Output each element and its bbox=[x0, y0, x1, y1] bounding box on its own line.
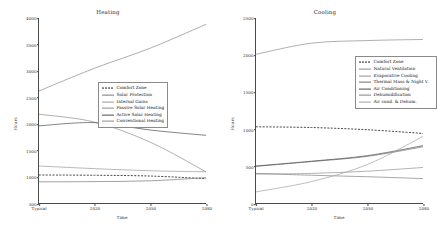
legend-item[interactable]: Passive Solar Heating bbox=[102, 105, 165, 112]
legend-item[interactable]: Thermal Mass & Night V. bbox=[359, 79, 434, 86]
x-tick-label: 2020 bbox=[90, 206, 100, 211]
y-tick-label: 1000 bbox=[26, 175, 36, 180]
chart-panel-heating: Heating Hours 50010001500200025003000350… bbox=[0, 0, 216, 248]
y-tick-label: 2500 bbox=[26, 95, 36, 100]
chart-title-cooling: Cooling bbox=[217, 9, 433, 15]
plot-area-cooling: 05001000150020002500Typical202020502080 bbox=[255, 18, 423, 204]
legend-line-swatch bbox=[359, 61, 371, 64]
x-tick-label: 2080 bbox=[202, 206, 212, 211]
y-axis-label-cooling: Hours bbox=[230, 117, 235, 130]
series-line bbox=[39, 24, 206, 91]
y-tick-mark bbox=[37, 124, 39, 125]
x-tick-label: Typical bbox=[31, 206, 46, 211]
legend-item-label: Dehumidification bbox=[374, 93, 411, 97]
x-tick-label: 2050 bbox=[146, 206, 156, 211]
legend-item[interactable]: Solar Protection bbox=[102, 92, 165, 99]
y-tick-mark bbox=[37, 18, 39, 19]
legend-line-swatch bbox=[102, 120, 114, 123]
legend-item[interactable]: Air Conditioning bbox=[359, 86, 434, 93]
series-line bbox=[256, 127, 423, 134]
series-line bbox=[256, 167, 423, 174]
x-tick-mark bbox=[95, 204, 96, 206]
y-tick-mark bbox=[254, 129, 256, 130]
y-tick-label: 1500 bbox=[26, 148, 36, 153]
y-tick-mark bbox=[254, 18, 256, 19]
legend-line-swatch bbox=[102, 87, 114, 90]
legend-item-label: Active Solar Heating bbox=[117, 113, 162, 117]
legend-item[interactable]: Dehumidification bbox=[359, 92, 434, 99]
series-lines-cooling bbox=[256, 18, 423, 203]
legend-item-label: Thermal Mass & Night V. bbox=[374, 80, 429, 84]
legend-line-swatch bbox=[359, 94, 371, 97]
legend-item[interactable]: Evaporative Cooling bbox=[359, 72, 434, 79]
legend-item-label: Solar Protection bbox=[117, 93, 153, 97]
legend-item-label: Comfort Zone bbox=[374, 60, 404, 64]
legend-line-swatch bbox=[359, 87, 371, 90]
x-tick-mark bbox=[151, 204, 152, 206]
chart-title-heating: Heating bbox=[0, 9, 216, 15]
legend-item[interactable]: Conventional Heating bbox=[102, 118, 165, 125]
x-tick-mark bbox=[312, 204, 313, 206]
legend-item[interactable]: Air cond. & Dehum. bbox=[359, 99, 434, 106]
legend-line-swatch bbox=[102, 107, 114, 110]
y-tick-label: 500 bbox=[246, 164, 254, 169]
x-tick-mark bbox=[368, 204, 369, 206]
x-axis-label-cooling: Time bbox=[255, 215, 423, 220]
y-tick-label: 3000 bbox=[26, 69, 36, 74]
legend-line-swatch bbox=[359, 74, 371, 77]
y-tick-label: 1000 bbox=[243, 127, 253, 132]
legend-line-swatch bbox=[359, 81, 371, 84]
legend-line-swatch bbox=[359, 101, 371, 104]
y-tick-label: 2500 bbox=[243, 16, 253, 21]
legend-item-label: Internal Gains bbox=[117, 100, 148, 104]
y-tick-label: 4000 bbox=[26, 16, 36, 21]
x-tick-mark bbox=[207, 204, 208, 206]
series-line bbox=[39, 166, 206, 172]
y-tick-label: 1500 bbox=[243, 90, 253, 95]
series-line bbox=[39, 178, 206, 182]
legend-line-swatch bbox=[102, 94, 114, 97]
legend-item-label: Evaporative Cooling bbox=[374, 74, 418, 78]
legend-line-swatch bbox=[102, 113, 114, 116]
y-tick-mark bbox=[37, 71, 39, 72]
series-line bbox=[39, 175, 206, 179]
x-axis-label-heating: Time bbox=[38, 215, 206, 220]
y-tick-mark bbox=[254, 92, 256, 93]
legend-item-label: Air cond. & Dehum. bbox=[374, 100, 417, 104]
y-tick-mark bbox=[254, 166, 256, 167]
legend-heating[interactable]: Comfort ZoneSolar ProtectionInternal Gai… bbox=[98, 82, 168, 128]
x-tick-mark bbox=[39, 204, 40, 206]
legend-item[interactable]: Natural Ventilation bbox=[359, 66, 434, 73]
x-tick-mark bbox=[256, 204, 257, 206]
x-tick-label: 2050 bbox=[363, 206, 373, 211]
legend-cooling[interactable]: Comfort ZoneNatural VentilationEvaporati… bbox=[355, 56, 437, 109]
legend-line-swatch bbox=[102, 100, 114, 103]
y-tick-label: 2000 bbox=[243, 53, 253, 58]
y-axis-label-heating: Hours bbox=[13, 117, 18, 130]
x-tick-mark bbox=[424, 204, 425, 206]
series-line bbox=[256, 39, 423, 54]
legend-item[interactable]: Comfort Zone bbox=[359, 59, 434, 66]
y-tick-label: 2000 bbox=[26, 122, 36, 127]
y-tick-mark bbox=[254, 55, 256, 56]
y-tick-mark bbox=[37, 177, 39, 178]
legend-item-label: Comfort Zone bbox=[117, 86, 147, 90]
x-tick-label: Typical bbox=[248, 206, 263, 211]
legend-item-label: Passive Solar Heating bbox=[117, 106, 165, 110]
legend-item-label: Natural Ventilation bbox=[374, 67, 416, 71]
x-tick-label: 2080 bbox=[419, 206, 429, 211]
x-tick-label: 2020 bbox=[307, 206, 317, 211]
legend-line-swatch bbox=[359, 68, 371, 71]
legend-item[interactable]: Comfort Zone bbox=[102, 85, 165, 92]
y-tick-mark bbox=[37, 151, 39, 152]
legend-item-label: Air Conditioning bbox=[374, 87, 410, 91]
series-line bbox=[256, 146, 423, 166]
legend-item[interactable]: Active Solar Heating bbox=[102, 112, 165, 119]
y-tick-mark bbox=[37, 97, 39, 98]
legend-item[interactable]: Internal Gains bbox=[102, 98, 165, 105]
y-tick-label: 3500 bbox=[26, 42, 36, 47]
legend-item-label: Conventional Heating bbox=[117, 119, 165, 123]
chart-panel-cooling: Cooling Hours 05001000150020002500Typica… bbox=[217, 0, 433, 248]
y-tick-mark bbox=[37, 44, 39, 45]
